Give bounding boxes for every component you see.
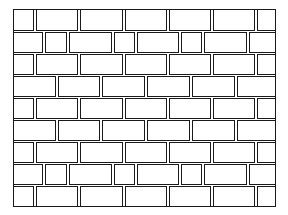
brick (147, 76, 190, 97)
brick (36, 186, 78, 207)
brick (36, 54, 78, 75)
brick (213, 54, 255, 75)
brick (36, 142, 78, 163)
brick (80, 54, 123, 75)
brick (249, 32, 276, 53)
brick (213, 142, 255, 163)
brick (80, 142, 123, 163)
brick (102, 76, 145, 97)
brick (36, 9, 78, 31)
brick (257, 142, 276, 163)
brick (237, 76, 276, 97)
brick (257, 98, 276, 119)
brick (181, 32, 202, 53)
brick (169, 54, 211, 75)
brick (13, 32, 43, 53)
brick (69, 164, 112, 185)
brick (213, 98, 255, 119)
brick (204, 164, 247, 185)
brick (58, 76, 100, 97)
brick (114, 164, 135, 185)
brick (69, 32, 112, 53)
brick (192, 76, 235, 97)
brick (13, 164, 43, 185)
brick (137, 164, 179, 185)
brick (45, 164, 67, 185)
brick (80, 9, 123, 31)
brick (114, 32, 135, 53)
brick (58, 120, 100, 141)
brick (147, 120, 190, 141)
brick (169, 142, 211, 163)
brick (257, 186, 276, 207)
brick (213, 186, 255, 207)
brick (249, 164, 276, 185)
brick (213, 9, 255, 31)
brick (169, 98, 211, 119)
brick (13, 186, 34, 207)
brick (125, 142, 167, 163)
brick (192, 120, 235, 141)
brick (45, 32, 67, 53)
brick (169, 9, 211, 31)
brick (13, 54, 34, 75)
brick (102, 120, 145, 141)
brick (13, 98, 34, 119)
brick (125, 9, 167, 31)
brick (125, 54, 167, 75)
brick (13, 9, 34, 31)
brick (257, 54, 276, 75)
brick (13, 142, 34, 163)
brick (137, 32, 179, 53)
brick (125, 98, 167, 119)
brick (257, 9, 276, 31)
brick (13, 120, 56, 141)
brick (125, 186, 167, 207)
brick (36, 98, 78, 119)
brick (181, 164, 202, 185)
brick (80, 98, 123, 119)
brick (169, 186, 211, 207)
brick-wall (13, 9, 276, 207)
brick (13, 76, 56, 97)
brick (80, 186, 123, 207)
brick (204, 32, 247, 53)
brick (237, 120, 276, 141)
